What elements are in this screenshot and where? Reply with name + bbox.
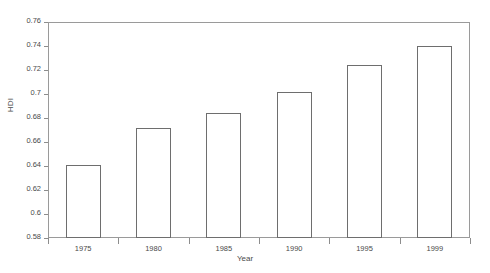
x-axis-tick-label: 1995 <box>356 244 373 253</box>
y-axis-tick-label: 0.6 <box>31 208 41 217</box>
bar <box>66 165 101 238</box>
y-axis-tick-label: 0.72 <box>26 64 41 73</box>
y-axis-tick-label: 0.74 <box>26 40 41 49</box>
bar <box>277 92 312 238</box>
y-axis-tick-mark <box>44 166 48 167</box>
bar <box>136 128 171 238</box>
x-axis-tick-label: 1999 <box>426 244 443 253</box>
y-axis-tick-mark <box>44 214 48 215</box>
x-axis-tick-label: 1980 <box>145 244 162 253</box>
x-axis-tick-mark <box>470 238 471 244</box>
y-axis-tick-mark <box>44 94 48 95</box>
y-axis-tick-mark <box>44 70 48 71</box>
x-axis-tick-mark <box>259 238 260 244</box>
hdi-bar-chart: HDI 0.580.60.620.640.660.680.70.720.740.… <box>0 0 490 273</box>
x-axis-tick-mark <box>48 238 49 244</box>
y-axis-tick-label: 0.62 <box>26 184 41 193</box>
y-axis-tick-mark <box>44 118 48 119</box>
bar <box>347 65 382 238</box>
y-axis-tick-label: 0.76 <box>26 16 41 25</box>
y-axis-tick-mark <box>44 190 48 191</box>
x-axis-tick-label: 1990 <box>286 244 303 253</box>
bar <box>417 46 452 238</box>
x-axis-tick-mark <box>118 238 119 244</box>
y-axis-tick-mark <box>44 142 48 143</box>
y-axis-title: HDI <box>6 80 26 130</box>
x-axis-title: Year <box>0 254 490 263</box>
y-axis-tick-label: 0.66 <box>26 136 41 145</box>
x-axis-tick-label: 1985 <box>215 244 232 253</box>
bar <box>206 113 241 238</box>
y-axis-tick-mark <box>44 46 48 47</box>
plot-area <box>48 22 470 238</box>
y-axis-tick-label: 0.58 <box>26 232 41 241</box>
x-axis-tick-mark <box>400 238 401 244</box>
y-axis-tick-label: 0.7 <box>31 88 41 97</box>
y-axis-tick-label: 0.68 <box>26 112 41 121</box>
y-axis-tick-mark <box>44 22 48 23</box>
x-axis-tick-mark <box>189 238 190 244</box>
x-axis-tick-mark <box>329 238 330 244</box>
x-axis-tick-label: 1975 <box>75 244 92 253</box>
y-axis-tick-label: 0.64 <box>26 160 41 169</box>
